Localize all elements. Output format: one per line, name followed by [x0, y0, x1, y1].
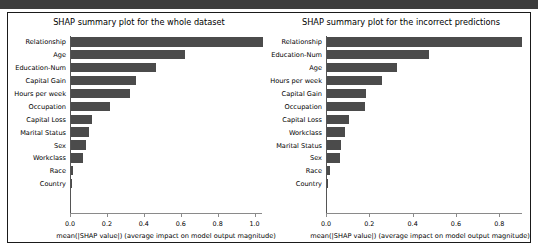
y-tick-label: Relationship	[282, 38, 322, 46]
bar	[327, 50, 429, 59]
bar	[327, 115, 349, 124]
bar	[327, 37, 522, 46]
x-tick-label: 0.0	[65, 220, 75, 228]
x-axis-label-right: mean(|SHAP value|) (average impact on mo…	[310, 232, 530, 240]
y-tick-label: Race	[50, 167, 66, 175]
y-tick-label: Capital Gain	[26, 77, 66, 85]
x-tick-mark	[107, 214, 108, 217]
bar-row: Education-Num	[70, 62, 262, 75]
chart-panel-whole-dataset: SHAP summary plot for the whole dataset …	[8, 13, 270, 242]
bar-row: Occupation	[326, 100, 522, 113]
y-tick-label: Occupation	[285, 103, 322, 111]
bar-row: Relationship	[326, 36, 522, 49]
bar-row: Relationship	[70, 36, 262, 49]
bar	[327, 76, 382, 85]
bar	[71, 76, 136, 85]
bar	[327, 153, 340, 162]
y-tick-label: Capital Loss	[26, 116, 66, 124]
bar	[327, 179, 328, 188]
y-tick-label: Education-Num	[15, 64, 66, 72]
bar-rows-left: RelationshipAgeEducation-NumCapital Gain…	[70, 36, 262, 204]
bar-row: Race	[326, 165, 522, 178]
figure-frame: SHAP summary plot for the whole dataset …	[7, 12, 531, 243]
y-tick-label: Sex	[310, 154, 322, 162]
x-tick-label: 0.0	[321, 220, 331, 228]
y-tick-label: Capital Loss	[282, 116, 322, 124]
bar	[327, 166, 330, 175]
bar	[71, 166, 73, 175]
y-tick-label: Country	[40, 180, 66, 188]
bar-row: Hours per week	[70, 88, 262, 101]
y-tick-label: Race	[306, 167, 322, 175]
x-tick-label: 0.8	[213, 220, 223, 228]
bar-row: Sex	[326, 152, 522, 165]
x-tick-mark	[144, 214, 145, 217]
y-tick-label: Relationship	[26, 38, 66, 46]
y-tick-label: Marital Status	[276, 142, 322, 150]
x-tick-mark	[70, 214, 71, 217]
bar	[71, 140, 86, 149]
bar	[71, 37, 263, 46]
y-tick-label: Hours per week	[270, 77, 322, 85]
bar-row: Capital Gain	[326, 88, 522, 101]
x-tick-mark	[499, 214, 500, 217]
x-tick-label: 0.8	[494, 220, 504, 228]
x-tick-mark	[326, 214, 327, 217]
y-tick-label: Workclass	[33, 154, 66, 162]
bar	[327, 102, 365, 111]
bar-row: Sex	[70, 139, 262, 152]
bar	[71, 127, 89, 136]
y-tick-label: Hours per week	[14, 90, 66, 98]
bar	[71, 153, 83, 162]
x-tick-label: 0.6	[451, 220, 461, 228]
bar	[327, 127, 345, 136]
bar-row: Country	[326, 178, 522, 191]
bar	[327, 89, 366, 98]
chart-title-left: SHAP summary plot for the whole dataset	[8, 17, 270, 27]
x-tick-mark	[456, 214, 457, 217]
x-tick-label: 0.2	[102, 220, 112, 228]
x-tick-label: 1.0	[250, 220, 260, 228]
bar-row: Marital Status	[70, 126, 262, 139]
plot-area-right: RelationshipEducation-NumAgeHours per we…	[326, 36, 522, 214]
bar-row: Capital Gain	[70, 75, 262, 88]
bar-row: Capital Loss	[70, 113, 262, 126]
y-tick-label: Age	[53, 51, 66, 59]
bar-row: Country	[70, 178, 262, 191]
x-axis-label-left: mean(|SHAP value|) (average impact on mo…	[56, 232, 276, 240]
screenshot-root: SHAP summary plot for the whole dataset …	[0, 0, 538, 251]
bar-row: Workclass	[326, 126, 522, 139]
bar-rows-right: RelationshipEducation-NumAgeHours per we…	[326, 36, 522, 204]
window-title-bar	[0, 0, 538, 9]
bar	[71, 50, 185, 59]
bar	[327, 140, 341, 149]
bar-row: Age	[70, 49, 262, 62]
bar	[71, 102, 110, 111]
bar	[71, 89, 130, 98]
bar-row: Capital Loss	[326, 113, 522, 126]
x-tick-mark	[413, 214, 414, 217]
bar	[71, 115, 92, 124]
y-tick-label: Country	[296, 180, 322, 188]
bar-row: Hours per week	[326, 75, 522, 88]
bar	[71, 63, 156, 72]
chart-title-right: SHAP summary plot for the incorrect pred…	[270, 17, 532, 27]
y-tick-label: Marital Status	[20, 129, 66, 137]
y-tick-label: Education-Num	[271, 51, 322, 59]
bar	[327, 63, 397, 72]
x-tick-label: 0.2	[364, 220, 374, 228]
bar-row: Occupation	[70, 100, 262, 113]
plot-area-left: RelationshipAgeEducation-NumCapital Gain…	[70, 36, 262, 214]
x-axis-ticks-left: 0.00.20.40.60.81.0	[70, 213, 262, 214]
x-axis-ticks-right: 0.00.20.40.60.8	[326, 213, 522, 214]
x-tick-label: 0.4	[139, 220, 149, 228]
x-tick-label: 0.6	[176, 220, 186, 228]
y-tick-label: Capital Gain	[282, 90, 322, 98]
y-tick-label: Occupation	[29, 103, 66, 111]
bar-row: Age	[326, 62, 522, 75]
y-tick-label: Age	[309, 64, 322, 72]
x-tick-mark	[218, 214, 219, 217]
x-tick-mark	[369, 214, 370, 217]
y-tick-label: Workclass	[289, 129, 322, 137]
bar-row: Workclass	[70, 152, 262, 165]
